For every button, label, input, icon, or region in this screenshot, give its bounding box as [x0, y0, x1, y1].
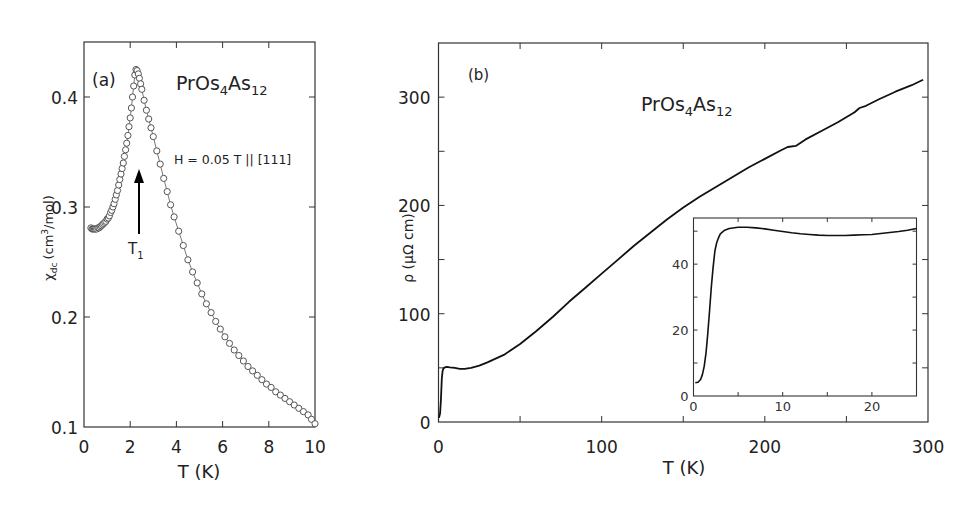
data-point [127, 115, 133, 121]
y-tick-label: 300 [398, 88, 430, 108]
data-point [226, 340, 232, 346]
panel-a: 02468100.10.20.30.4 (a) PrOs4As12 H = 0.… [40, 42, 326, 482]
x-tick-label: 0 [689, 399, 697, 414]
x-tick-label: 4 [171, 437, 182, 457]
y-tick-label: 20 [672, 323, 689, 338]
y-tick-label: 40 [672, 257, 689, 272]
panel-a-connecting-line [91, 70, 315, 424]
inset: 0102002040 [672, 218, 917, 414]
data-point [217, 326, 223, 332]
data-point [146, 116, 152, 122]
data-point [185, 257, 191, 263]
y-tick-label: 0.2 [51, 308, 78, 328]
data-point [180, 242, 186, 248]
panel-b-label: (b) [468, 66, 489, 84]
panel-a-xlabel: T (K) [177, 461, 221, 482]
data-point [131, 83, 137, 89]
data-point [128, 105, 134, 111]
data-point [208, 310, 214, 316]
data-point [141, 97, 147, 103]
y-tick-label: 0 [680, 389, 688, 404]
x-tick-label: 10 [304, 437, 326, 457]
data-point [171, 214, 177, 220]
data-point [143, 107, 149, 113]
figure: 02468100.10.20.30.4 (a) PrOs4As12 H = 0.… [0, 0, 974, 509]
panel-b-ylabel: ρ (μΩ cm) [400, 213, 416, 283]
data-point [194, 280, 200, 286]
t1-arrow-icon [134, 169, 144, 234]
data-point [139, 86, 145, 92]
data-point [231, 347, 237, 353]
data-point [203, 301, 209, 307]
data-point [154, 148, 160, 154]
data-point [150, 134, 156, 140]
data-point [157, 161, 163, 167]
x-tick-label: 8 [263, 437, 274, 457]
panel-b-xlabel: T (K) [662, 457, 706, 478]
data-point [124, 140, 130, 146]
data-point [125, 132, 131, 138]
data-point [120, 160, 126, 166]
y-tick-label: 0 [420, 413, 431, 433]
data-point [126, 124, 132, 130]
data-point [161, 175, 167, 181]
data-point [129, 94, 135, 100]
data-point [240, 358, 246, 364]
t1-label: T1 [127, 240, 144, 261]
x-tick-label: 20 [864, 399, 881, 414]
field-annotation: H = 0.05 T || [111] [174, 152, 291, 167]
panel-a-frame [84, 42, 315, 427]
data-point [164, 189, 170, 195]
x-tick-label: 6 [217, 437, 228, 457]
data-point [236, 352, 242, 358]
y-tick-label: 0.4 [51, 88, 78, 108]
data-point [176, 228, 182, 234]
x-tick-label: 100 [585, 437, 617, 457]
panel-a-data-markers [88, 66, 318, 426]
data-point [213, 318, 219, 324]
x-tick-label: 0 [79, 437, 90, 457]
x-tick-label: 300 [912, 437, 944, 457]
data-point [312, 421, 318, 427]
data-point [190, 269, 196, 275]
y-tick-label: 100 [398, 305, 430, 325]
panel-a-ticks [84, 42, 315, 427]
panel-a-title: PrOs4As12 [176, 72, 268, 98]
data-point [168, 202, 174, 208]
panel-b: 01002003000100200300 (b) PrOs4As12 T (K)… [398, 43, 944, 478]
x-tick-label: 10 [774, 399, 791, 414]
inset-frame [694, 218, 917, 396]
y-tick-label: 0.1 [51, 418, 78, 438]
data-point [148, 125, 154, 131]
data-point [121, 153, 127, 159]
panel-a-label: (a) [92, 70, 116, 90]
data-point [123, 147, 129, 153]
x-tick-label: 2 [125, 437, 136, 457]
data-point [222, 334, 228, 340]
panel-b-title: PrOs4As12 [641, 93, 733, 119]
x-tick-label: 200 [749, 437, 781, 457]
x-tick-label: 0 [433, 437, 444, 457]
data-point [199, 291, 205, 297]
